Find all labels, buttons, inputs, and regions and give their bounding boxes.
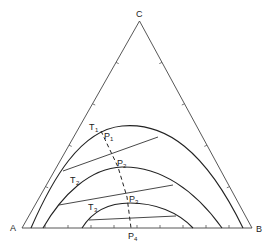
isotherm-label-t3: T 3 bbox=[88, 202, 98, 213]
svg-text:2: 2 bbox=[76, 180, 80, 186]
plait-point-label-p2: P 2 bbox=[117, 158, 127, 169]
edge-ac bbox=[22, 21, 140, 228]
plait-point-label-p3: P 3 bbox=[129, 194, 139, 205]
tie-line-1 bbox=[63, 137, 158, 171]
vertex-label-c: C bbox=[136, 9, 143, 19]
svg-text:2: 2 bbox=[123, 163, 127, 169]
plait-point-label-p4: P 4 bbox=[128, 231, 138, 242]
svg-text:3: 3 bbox=[135, 199, 139, 205]
plait-point-label-p1: P 1 bbox=[104, 131, 114, 142]
plait-point-locus bbox=[101, 131, 131, 228]
binodal-curve-t3 bbox=[82, 203, 193, 228]
vertex-label-a: A bbox=[10, 223, 16, 233]
isotherm-label-t2: T 2 bbox=[70, 175, 80, 186]
svg-text:4: 4 bbox=[134, 236, 138, 242]
svg-text:1: 1 bbox=[110, 136, 114, 142]
isotherm-label-t1: T 1 bbox=[89, 122, 99, 133]
binodal-curve-t1 bbox=[31, 126, 243, 228]
diagram-canvas: C A B T 1 T 2 T 3 P 1 P 2 P 3 P bbox=[0, 0, 273, 243]
ternary-diagram: C A B T 1 T 2 T 3 P 1 P 2 P 3 P bbox=[0, 0, 273, 243]
edge-bc bbox=[140, 21, 253, 228]
tie-line-2 bbox=[59, 185, 173, 205]
tie-line-3 bbox=[89, 216, 176, 220]
vertex-label-b: B bbox=[256, 224, 262, 234]
svg-text:1: 1 bbox=[95, 127, 99, 133]
ticks-bc bbox=[159, 62, 229, 187]
triangle-frame bbox=[22, 21, 252, 228]
